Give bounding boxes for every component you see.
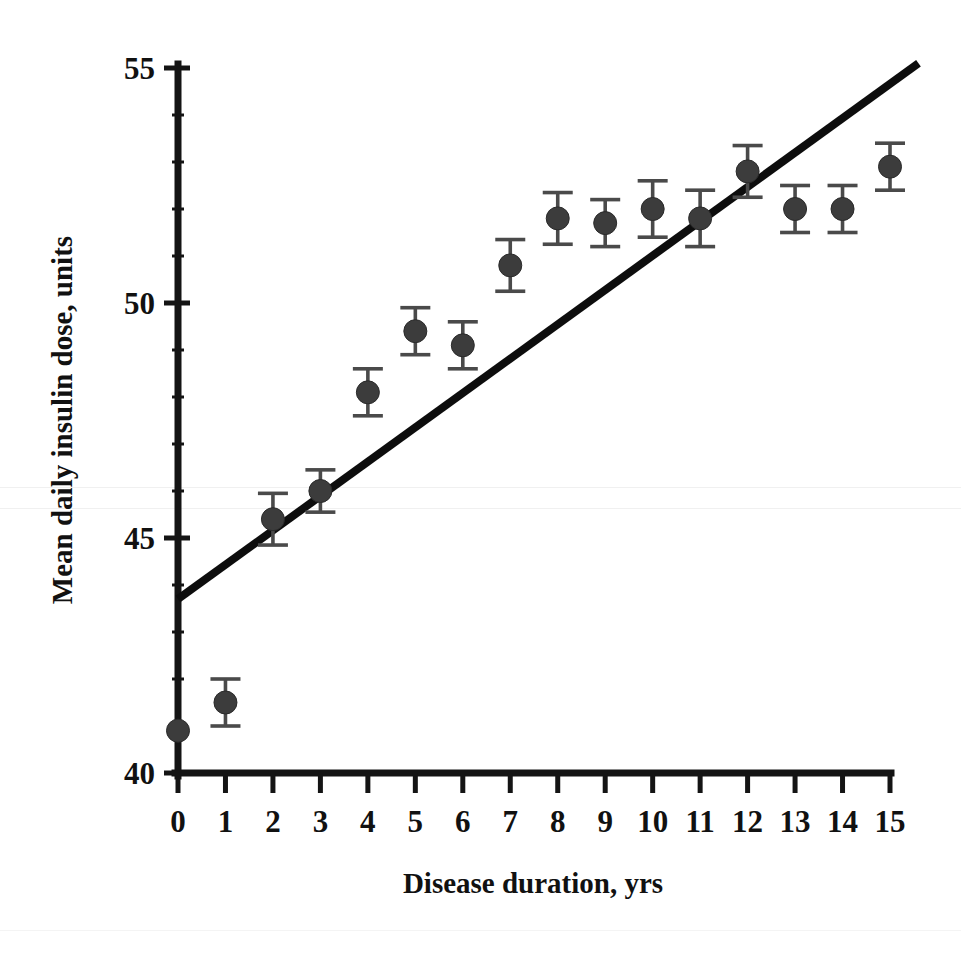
y-tick-label: 45 <box>124 521 155 556</box>
data-point-marker <box>594 212 617 235</box>
trend-line <box>178 63 918 599</box>
data-point-marker <box>879 155 902 178</box>
data-point-marker <box>784 198 807 221</box>
data-point-marker <box>404 320 427 343</box>
x-tick-label: 2 <box>265 804 281 839</box>
x-tick-label: 0 <box>170 804 186 839</box>
data-point-marker <box>641 198 664 221</box>
chart-page: 40455055 0123456789101112131415 Disease … <box>0 0 961 956</box>
data-point-marker <box>689 207 712 230</box>
data-point-marker <box>309 480 332 503</box>
data-point-marker <box>499 254 522 277</box>
x-tick-label: 7 <box>503 804 519 839</box>
x-tick-label: 13 <box>780 804 811 839</box>
y-axis-tick-labels: 40455055 <box>124 51 155 791</box>
data-point-marker <box>261 508 284 531</box>
data-point-marker <box>356 381 379 404</box>
x-tick-label: 15 <box>875 804 906 839</box>
y-tick-label: 55 <box>124 51 155 86</box>
x-tick-label: 1 <box>218 804 234 839</box>
data-point-marker <box>451 334 474 357</box>
data-point-markers <box>167 155 902 742</box>
data-point-marker <box>214 691 237 714</box>
x-tick-label: 8 <box>550 804 566 839</box>
x-tick-label: 4 <box>360 804 376 839</box>
y-tick-label: 50 <box>124 286 155 321</box>
data-point-marker <box>831 198 854 221</box>
x-axis-title: Disease duration, yrs <box>403 867 663 899</box>
x-tick-label: 3 <box>313 804 329 839</box>
scatter-plot: 40455055 0123456789101112131415 Disease … <box>0 0 961 956</box>
x-tick-label: 11 <box>685 804 714 839</box>
data-point-marker <box>167 719 190 742</box>
y-axis-title: Mean daily insulin dose, units <box>46 236 78 604</box>
error-bars <box>210 143 905 726</box>
x-tick-label: 10 <box>637 804 668 839</box>
x-tick-label: 12 <box>732 804 763 839</box>
linear-trend-line <box>178 63 918 599</box>
data-point-marker <box>546 207 569 230</box>
x-tick-label: 6 <box>455 804 471 839</box>
x-tick-label: 9 <box>597 804 613 839</box>
data-point-marker <box>736 160 759 183</box>
x-axis-tick-labels: 0123456789101112131415 <box>170 804 905 839</box>
x-tick-label: 5 <box>408 804 424 839</box>
x-tick-label: 14 <box>827 804 858 839</box>
y-tick-label: 40 <box>124 756 155 791</box>
